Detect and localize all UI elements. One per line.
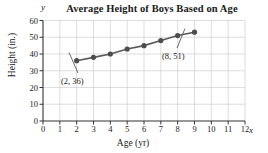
y-tick-label-20: 20 <box>20 83 38 93</box>
x-tick-label-9: 9 <box>187 124 203 134</box>
x-tick-label-4: 4 <box>102 124 118 134</box>
x-tick-label-3: 3 <box>86 124 102 134</box>
x-tick-label-12: 12 <box>237 124 253 134</box>
y-tick-label-10: 10 <box>20 99 38 109</box>
x-tick-label-1: 1 <box>52 124 68 134</box>
y-tick-label-40: 40 <box>20 49 38 59</box>
x-tick-label-11: 11 <box>220 124 236 134</box>
x-tick-label-0: 0 <box>35 124 51 134</box>
x-tick-label-7: 7 <box>153 124 169 134</box>
x-tick-label-8: 8 <box>170 124 186 134</box>
y-tick-label-60: 60 <box>20 16 38 26</box>
tick-marks <box>40 21 246 125</box>
y-tick-label-50: 50 <box>20 32 38 42</box>
x-tick-label-2: 2 <box>69 124 85 134</box>
annotation-point-2-36: (2, 36) <box>61 76 84 86</box>
chart-container: Average Height of Boys Based on Age y x … <box>0 0 268 153</box>
x-tick-label-5: 5 <box>119 124 135 134</box>
gridlines <box>43 21 245 122</box>
x-tick-label-10: 10 <box>203 124 219 134</box>
annotation-point-8-51: (8, 51) <box>162 51 185 61</box>
y-tick-label-30: 30 <box>20 66 38 76</box>
x-tick-label-6: 6 <box>136 124 152 134</box>
